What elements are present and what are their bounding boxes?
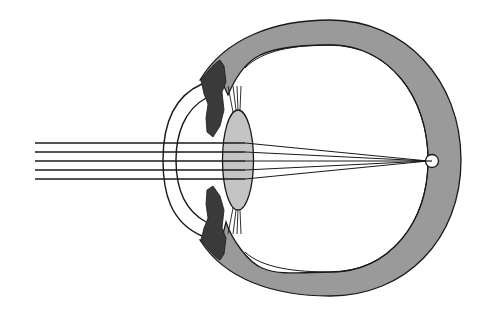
light-rays bbox=[35, 143, 245, 179]
eye-diagram: Eye cross-section with parallel light ra… bbox=[0, 0, 486, 312]
converging-rays bbox=[245, 143, 428, 179]
lens bbox=[223, 110, 254, 210]
cornea bbox=[163, 84, 206, 236]
iris-bottom bbox=[201, 186, 226, 260]
